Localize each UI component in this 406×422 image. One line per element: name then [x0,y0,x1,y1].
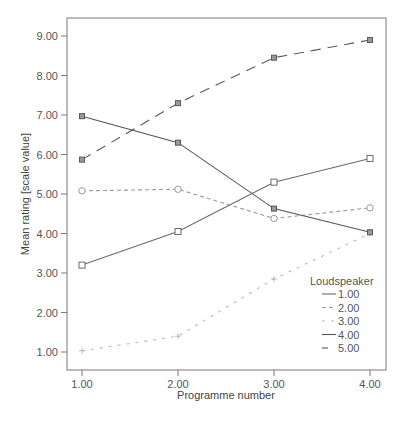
y-tick-label: 8.00 [37,70,58,82]
y-tick-label: 7.00 [37,109,58,121]
series-polyline [82,158,370,265]
legend-item: 1.00 [322,288,359,300]
y-axis-title: Mean rating [scale value] [19,133,31,255]
data-point-marker [79,348,85,354]
data-point-marker [271,215,277,221]
legend-label: 4.00 [338,329,359,341]
series-layer [79,37,373,353]
data-point-marker [175,229,181,235]
data-point-marker [176,140,181,145]
legend-label: 3.00 [338,315,359,327]
data-point-marker [272,206,277,211]
y-tick-label: 2.00 [37,307,58,319]
data-point-marker [367,155,373,161]
series-polyline [82,234,370,351]
series-line-1.00 [79,155,373,268]
series-polyline [82,40,370,160]
y-tick-label: 4.00 [37,228,58,240]
legend-item: 5.00 [322,342,359,354]
data-point-marker [175,186,181,192]
y-tick-label: 9.00 [37,30,58,42]
legend: Loudspeaker 1.002.003.004.005.00 [310,275,374,354]
x-axis: 1.002.003.004.00 [71,370,380,390]
series-line-4.00 [80,114,373,235]
x-tick-label: 4.00 [359,378,380,390]
data-point-marker [79,188,85,194]
data-point-marker [367,205,373,211]
legend-label: 2.00 [338,302,359,314]
legend-label: 1.00 [338,288,359,300]
data-point-marker [271,276,277,282]
y-axis: 1.002.003.004.005.006.007.008.009.00 [37,30,67,358]
series-line-5.00 [80,37,373,162]
data-point-marker [175,333,181,339]
data-point-marker [80,114,85,119]
data-point-marker [272,55,277,60]
y-tick-label: 5.00 [37,188,58,200]
line-chart: 1.002.003.004.005.006.007.008.009.00 1.0… [0,0,406,422]
legend-item: 2.00 [322,302,359,314]
data-point-marker [271,179,277,185]
data-point-marker [368,230,373,235]
y-tick-label: 3.00 [37,267,58,279]
legend-item: 4.00 [322,329,359,341]
legend-item: 3.00 [322,315,359,327]
series-line-3.00 [79,231,373,354]
data-point-marker [79,262,85,268]
series-line-2.00 [79,186,373,222]
y-tick-label: 1.00 [37,346,58,358]
legend-title: Loudspeaker [310,275,374,287]
x-axis-title: Programme number [177,389,275,401]
data-point-marker [80,157,85,162]
series-polyline [82,116,370,232]
data-point-marker [176,101,181,106]
y-tick-label: 6.00 [37,149,58,161]
x-tick-label: 1.00 [71,378,92,390]
series-polyline [82,189,370,218]
legend-label: 5.00 [338,342,359,354]
data-point-marker [368,37,373,42]
